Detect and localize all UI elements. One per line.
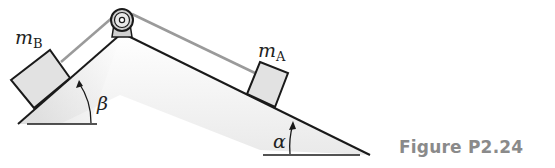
mass-b-label: mB <box>15 26 43 51</box>
wedge <box>18 33 370 155</box>
mass-a-label: mA <box>258 39 286 64</box>
figure-caption: Figure P2.24 <box>399 137 523 157</box>
beta-label: β <box>96 92 108 114</box>
alpha-label: α <box>273 130 286 152</box>
pulley <box>111 9 133 37</box>
